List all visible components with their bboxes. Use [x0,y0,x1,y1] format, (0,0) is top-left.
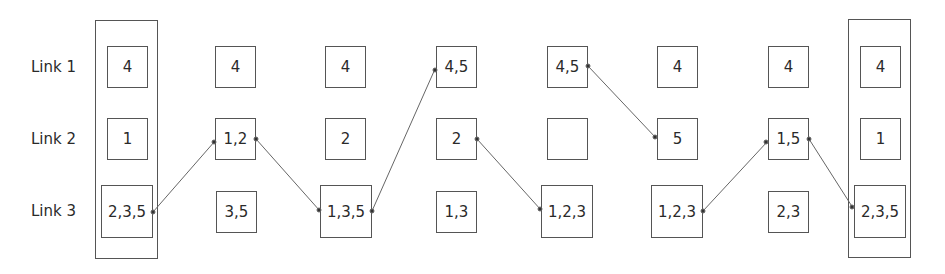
arrow-col5-col6 [588,66,656,138]
arrow-col7-col8 [809,139,853,208]
arrow-col3-col4 [372,69,435,211]
arrow-col6-col7 [703,142,767,211]
arrow-col1-col2 [153,141,215,212]
arrow-col2-col3 [256,139,320,211]
arrow-col4-col5 [477,139,541,210]
transition-arrows [0,0,945,274]
